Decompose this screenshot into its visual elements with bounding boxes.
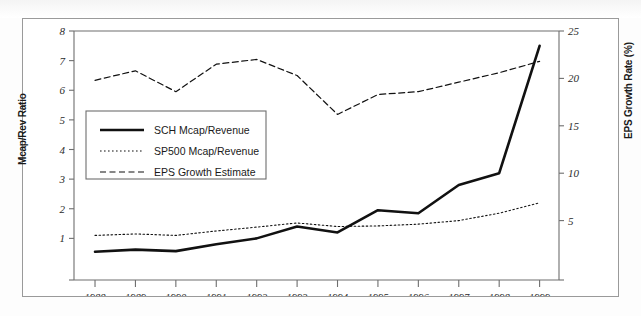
y-tick-label: 4 [60, 144, 66, 156]
legend-label: SCH Mcap/Revenue [154, 124, 250, 136]
y-tick-label: 1 [60, 232, 66, 244]
y-axis-right-title: EPS Growth Rate (%) [623, 42, 634, 139]
x-tick-label: 1994 [327, 292, 349, 296]
x-tick-label: 1999 [529, 292, 551, 296]
y2-tick-label: 25 [568, 25, 580, 37]
x-tick-label: 1989 [125, 292, 147, 296]
legend-label: EPS Growth Estimate [154, 166, 256, 178]
chart-legend: SCH Mcap/RevenueSP500 Mcap/RevenueEPS Gr… [86, 111, 266, 179]
y2-tick-label: 5 [568, 215, 574, 227]
x-tick-label: 1992 [246, 292, 268, 296]
y-tick-label: 3 [59, 173, 66, 185]
x-tick-label: 1990 [165, 292, 187, 296]
y2-tick-label: 20 [568, 72, 580, 84]
x-tick-label: 1988 [85, 292, 107, 296]
plot-area: 1234567851015202519881989199019911992199… [23, 19, 618, 296]
y-tick-label: 7 [60, 55, 66, 67]
legend-label: SP500 Mcap/Revenue [154, 145, 259, 157]
y-tick-label: 5 [60, 114, 66, 126]
series-line [95, 59, 540, 114]
y-tick-label: 6 [60, 84, 66, 96]
x-tick-label: 1993 [287, 292, 308, 296]
y-tick-label: 8 [60, 25, 66, 37]
x-tick-label: 1991 [206, 292, 227, 296]
x-tick-label: 1995 [367, 292, 388, 296]
y-tick-label: 2 [60, 203, 66, 215]
scan-artifact [0, 0, 641, 18]
y2-tick-label: 15 [568, 120, 580, 132]
x-tick-label: 1998 [489, 292, 511, 296]
chart-frame: Mcap/Rev Ratio EPS Growth Rate (%) 12345… [22, 18, 619, 297]
y2-tick-label: 10 [568, 167, 580, 179]
chart-figure: Mcap/Rev Ratio EPS Growth Rate (%) 12345… [0, 0, 641, 316]
x-tick-label: 1996 [408, 292, 430, 296]
x-tick-label: 1997 [448, 292, 470, 296]
